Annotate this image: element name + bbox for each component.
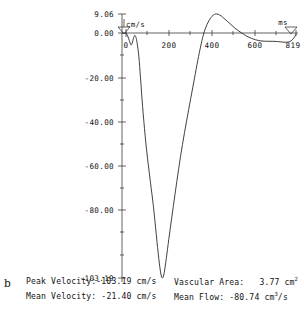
mean-flow-stat: Mean Flow: -80.74 cm3/s (174, 291, 288, 302)
vascular-area-label: Vascular Area: (174, 277, 244, 287)
x-tick-label-1: 200 (162, 41, 177, 50)
summary-row-1: Peak Velocity:-103.19 cm/s Vascular Area… (0, 276, 304, 292)
y-tick-label-1: 0.00 (94, 29, 114, 38)
x-tick-label-3: 600 (248, 41, 263, 50)
mean-velocity-label: Mean Velocity: (26, 291, 96, 301)
x-tick-label-2: 400 (205, 41, 220, 50)
mean-velocity-stat: Mean Velocity: -21.40 cm/s (26, 291, 157, 301)
y-tick-label-0: 9.06 (94, 10, 114, 19)
vascular-area-value: 3.77 cm (259, 277, 294, 287)
mean-flow-value: -80.74 cm (229, 292, 274, 302)
peak-velocity-value: -103.19 cm/s (96, 276, 156, 286)
y-tick-label-5: -80.00 (84, 206, 114, 215)
mean-flow-unit-tail: /s (278, 292, 288, 302)
time-unit-label: ms (278, 18, 288, 27)
y-tick-label-3: -40.00 (84, 118, 114, 127)
vascular-area-stat: Vascular Area: 3.77 cm2 (174, 276, 298, 287)
velocity-time-plot: 9.06 0.00 -20.00 -40.00 -60.00 -80.00 -1… (0, 0, 304, 309)
y-tick-label-2: -20.00 (84, 74, 114, 83)
mean-velocity-value: -21.40 cm/s (101, 291, 156, 301)
measurement-summary: b Peak Velocity:-103.19 cm/s Vascular Ar… (0, 276, 304, 309)
peak-velocity-label: Peak Velocity: (26, 276, 96, 286)
doppler-waveform-figure: 9.06 0.00 -20.00 -40.00 -60.00 -80.00 -1… (0, 0, 304, 309)
vascular-area-unit-exponent: 2 (295, 276, 298, 282)
summary-row-2: Mean Velocity: -21.40 cm/s Mean Flow: -8… (0, 291, 304, 307)
mean-flow-label: Mean Flow: (174, 292, 224, 302)
peak-velocity-stat: Peak Velocity:-103.19 cm/s (26, 276, 157, 286)
velocity-waveform-trace (126, 14, 296, 278)
x-tick-label-0: 0 (124, 41, 129, 50)
velocity-unit-label: cm/s (126, 20, 145, 29)
y-tick-label-4: -60.00 (84, 162, 114, 171)
vascular-area-spacer (244, 277, 259, 287)
